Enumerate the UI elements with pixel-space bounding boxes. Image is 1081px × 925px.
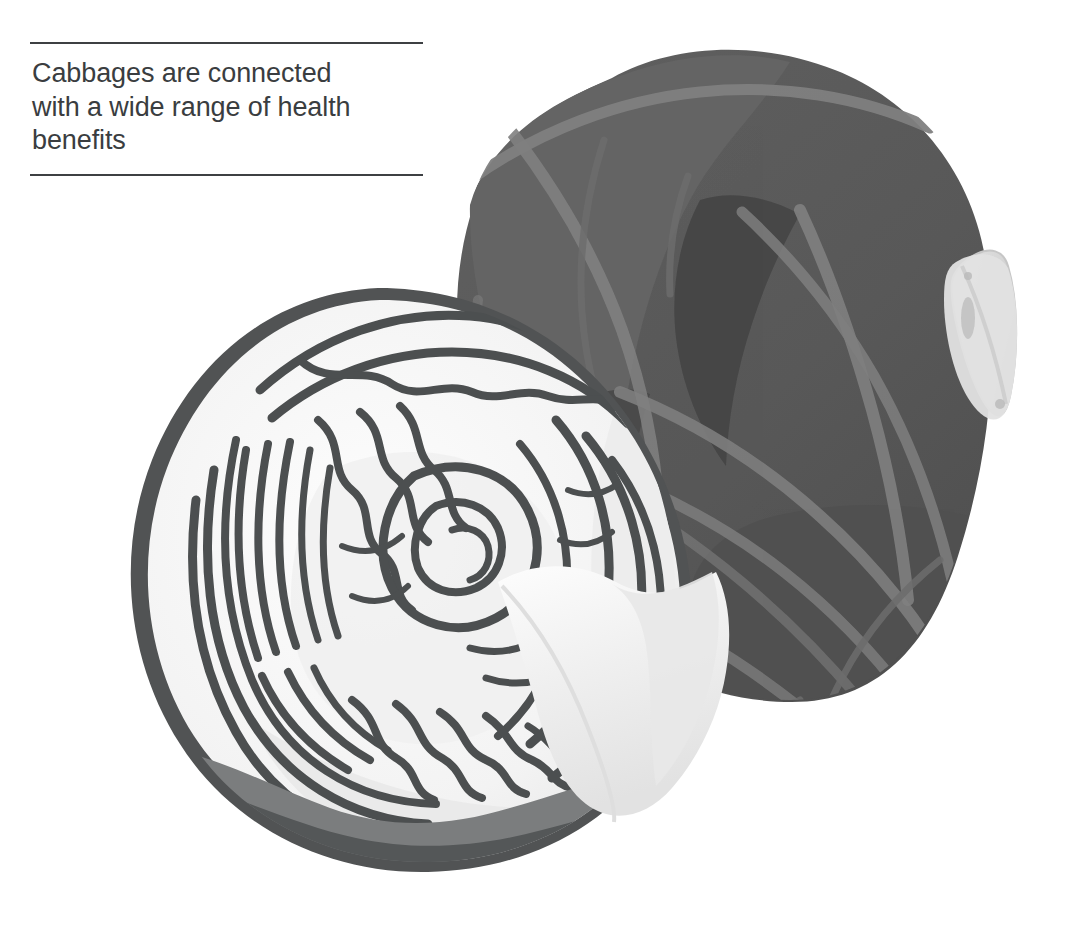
bottom-divider [30,174,423,176]
illustration-page: Cabbages are connected with a wide range… [0,0,1081,925]
caption-block: Cabbages are connected with a wide range… [30,42,423,176]
stem-node-spot-small-bottom [995,399,1005,409]
page-title: Cabbages are connected with a wide range… [30,44,423,174]
stem-node-spot-large [961,297,975,339]
stem-node-spot-small-top [964,272,972,280]
